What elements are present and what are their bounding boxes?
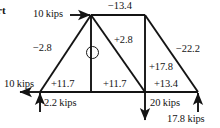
label-mid-load: 20 kips [150,98,180,109]
label-bottom-left: +11.7 [51,79,74,90]
label-apex-load: 10 kips [33,9,63,20]
label-left-vertical-reaction: 2.2 kips [44,98,76,109]
label-bottom-mid: +11.7 [103,79,126,90]
truss-force-diagram: rt −13.4 −2.8 +2.8 [0,0,220,128]
label-left-horizontal-reaction: 10 kips [4,79,34,90]
label-bottom-right: +13.4 [154,79,178,90]
zero-force-marker [86,46,99,59]
label-right-diagonal: −22.2 [176,44,200,55]
label-top-chord: −13.4 [108,1,132,12]
label-right-vertical-reaction: 17.8 kips [167,114,205,125]
label-left-diagonal: −2.8 [33,43,52,54]
label-right-vertical: +17.8 [149,62,173,73]
label-inner-diagonal: +2.8 [114,35,133,46]
